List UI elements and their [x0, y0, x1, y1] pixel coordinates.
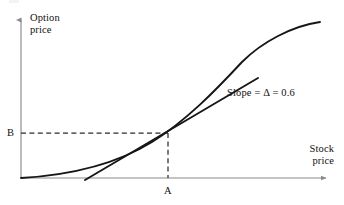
x-axis-label: Stock price — [262, 143, 334, 166]
x-axis-tick-label-a: A — [164, 185, 172, 196]
y-axis-tick-label-b: B — [7, 127, 14, 138]
slope-annotation: Slope = Δ = 0.6 — [227, 87, 295, 98]
y-axis-label: Option price — [30, 12, 60, 35]
option-price-chart: Option price Stock price B A Slope = Δ =… — [0, 0, 344, 205]
